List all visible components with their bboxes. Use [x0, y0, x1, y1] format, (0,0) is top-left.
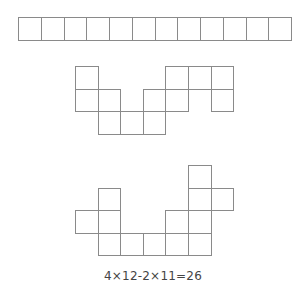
grid-square [211, 66, 234, 90]
grid-square [200, 17, 224, 41]
grid-square [246, 17, 269, 41]
grid-square [75, 89, 99, 112]
formula-caption: 4×12-2×11=26 [0, 269, 306, 283]
grid-square [188, 188, 212, 211]
grid-square [165, 89, 189, 112]
grid-square [165, 233, 189, 256]
grid-square [132, 17, 156, 41]
grid-square [98, 233, 121, 256]
grid-square [188, 66, 212, 90]
grid-square [18, 17, 42, 41]
grid-square [109, 17, 133, 41]
grid-square [223, 17, 247, 41]
grid-square [211, 89, 234, 112]
grid-square [98, 188, 121, 211]
grid-square [165, 66, 189, 90]
grid-square [188, 233, 212, 256]
grid-square [41, 17, 65, 41]
grid-square [75, 66, 99, 90]
grid-square [143, 233, 166, 256]
grid-square [268, 17, 292, 41]
grid-square [98, 89, 121, 112]
grid-square [177, 17, 201, 41]
grid-square [155, 17, 178, 41]
grid-square [211, 188, 234, 211]
diagram-canvas [0, 0, 306, 297]
grid-square [143, 89, 166, 112]
grid-square [64, 17, 87, 41]
grid-square [188, 210, 212, 234]
grid-square [98, 111, 121, 135]
grid-square [120, 233, 144, 256]
grid-square [165, 210, 189, 234]
grid-square [86, 17, 110, 41]
grid-square [188, 165, 212, 189]
grid-square [143, 111, 166, 135]
grid-square [98, 210, 121, 234]
grid-square [75, 210, 99, 234]
grid-square [120, 111, 144, 135]
